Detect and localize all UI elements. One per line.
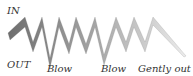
in-label: IN [7, 6, 20, 16]
blow-label-2: Blow [101, 64, 126, 74]
gently-out-label: Gently out [138, 64, 191, 74]
blow-label-1: Blow [47, 64, 72, 74]
breathing-pattern-diagram: IN OUT Blow Blow Gently out [0, 0, 193, 76]
out-label: OUT [7, 60, 30, 70]
